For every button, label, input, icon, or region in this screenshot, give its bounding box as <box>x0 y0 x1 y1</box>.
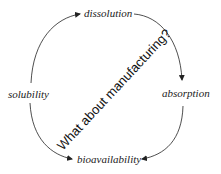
node-bioavailability: bioavailability <box>77 154 141 165</box>
arrow-solubility-to-dissolution <box>31 14 80 83</box>
node-dissolution: dissolution <box>84 8 132 19</box>
cycle-diagram: dissolution solubility absorption bioava… <box>0 0 221 174</box>
node-solubility: solubility <box>8 89 49 100</box>
node-absorption: absorption <box>162 88 210 99</box>
arrow-absorption-to-bioavailability <box>142 106 183 159</box>
